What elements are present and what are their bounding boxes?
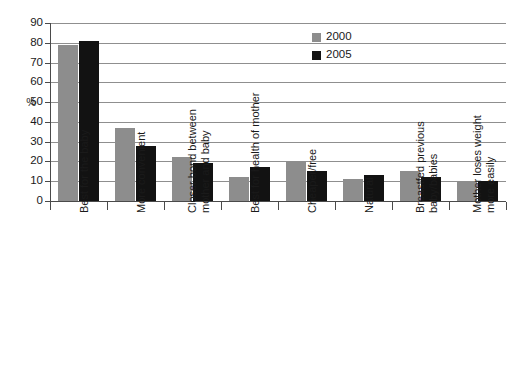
x-tick-mark <box>107 202 108 210</box>
gridline <box>50 82 506 83</box>
legend-swatch-icon <box>312 33 321 42</box>
legend-label: 2000 <box>326 31 352 43</box>
x-axis-category-label: Mother loses weightmore easily <box>471 115 497 213</box>
y-tick-label: 70 <box>15 57 43 69</box>
x-axis-category-label: More convenient <box>135 132 148 213</box>
gridline <box>50 63 506 64</box>
y-tick-label: 80 <box>15 37 43 49</box>
bar <box>115 128 135 201</box>
y-tick-label: 60 <box>15 76 43 88</box>
legend-label: 2005 <box>326 49 352 61</box>
x-axis-category-label: Best for health of mother <box>249 93 262 213</box>
legend-item: 2000 <box>312 30 352 44</box>
legend-item: 2005 <box>312 48 352 62</box>
bar <box>229 177 249 201</box>
bar <box>58 45 78 201</box>
y-tick-label: 20 <box>15 155 43 167</box>
x-tick-mark <box>164 202 165 210</box>
x-tick-mark <box>50 202 51 210</box>
gridline <box>50 102 506 103</box>
x-axis-category-label: Natural <box>363 178 376 213</box>
x-tick-mark <box>278 202 279 210</box>
bar <box>286 161 306 201</box>
y-tick-label: 90 <box>15 17 43 29</box>
x-axis-category-label: Closer bond betweenmother and baby <box>186 109 212 213</box>
gridline <box>50 23 506 24</box>
bar-chart: % 9080706050403020100 Best for the babyM… <box>0 0 530 372</box>
y-tick-label: 0 <box>15 195 43 207</box>
y-tick-label: 50 <box>15 96 43 108</box>
y-tick-label: 40 <box>15 116 43 128</box>
x-tick-mark <box>392 202 393 210</box>
x-tick-mark <box>449 202 450 210</box>
legend-swatch-icon <box>312 51 321 60</box>
y-tick-label: 10 <box>15 175 43 187</box>
y-axis-line <box>50 23 51 202</box>
x-tick-mark <box>335 202 336 210</box>
x-axis-category-label: Breastfed previousbaby/babies <box>414 121 440 213</box>
x-tick-mark <box>506 202 507 210</box>
x-axis-category-label: Best for the baby <box>78 130 91 213</box>
x-axis-category-label: Cheaper/free <box>306 149 319 213</box>
legend: 20002005 <box>312 30 352 62</box>
bar <box>343 179 363 201</box>
y-tick-label: 30 <box>15 136 43 148</box>
x-tick-mark <box>221 202 222 210</box>
gridline <box>50 43 506 44</box>
